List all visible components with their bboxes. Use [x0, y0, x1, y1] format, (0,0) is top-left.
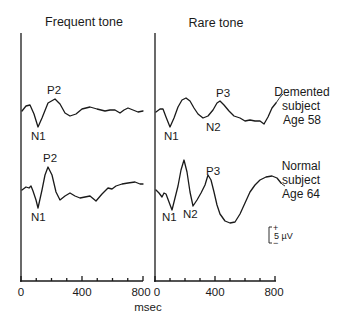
side-label-line: Normal: [282, 159, 321, 173]
peak-label-p2: P2: [47, 84, 61, 96]
peak-label-n1: N1: [31, 130, 46, 142]
right-tick-800: 800: [264, 286, 283, 298]
left-tick-0: 0: [18, 286, 24, 298]
scale-bracket: [269, 227, 272, 243]
scale-bar: + 5 µV −: [269, 223, 293, 248]
side-label-line: subject: [282, 173, 321, 187]
peak-label-p2: P2: [43, 152, 57, 164]
trace-frequent-demented: [22, 99, 143, 127]
panel-title-frequent: Frequent tone: [45, 15, 123, 29]
peak-label-n2: N2: [183, 208, 198, 220]
label-normal-subject: Normal subject Age 64: [281, 159, 321, 201]
label-demented-subject: Demented subject Age 58: [274, 85, 329, 127]
erp-figure: Frequent tone Rare tone 0 400 800 0 400 …: [0, 0, 339, 313]
left-axes: 0 400 800: [18, 33, 151, 298]
side-label-line: Age 58: [283, 113, 321, 127]
left-tick-400: 400: [72, 286, 91, 298]
right-tick-400: 400: [205, 286, 224, 298]
x-axis-label: msec: [134, 301, 162, 313]
panel-title-rare: Rare tone: [189, 16, 244, 30]
peak-label-n1: N1: [164, 130, 179, 142]
right-tick-0: 0: [154, 286, 160, 298]
left-x-ticks: [21, 276, 143, 281]
side-label-line: subject: [282, 99, 321, 113]
side-label-line: Age 64: [282, 187, 320, 201]
peak-label-p3: P3: [216, 87, 230, 99]
right-x-ticks: [155, 276, 275, 281]
trace-frequent-normal: [22, 167, 143, 208]
peak-label-n1: N1: [162, 211, 177, 223]
peak-label-n2: N2: [206, 121, 221, 133]
scale-minus: −: [273, 238, 278, 248]
peak-label-p3: P3: [206, 165, 220, 177]
side-label-line: Demented: [274, 85, 329, 99]
peak-label-n1: N1: [31, 211, 46, 223]
left-tick-800: 800: [131, 286, 150, 298]
